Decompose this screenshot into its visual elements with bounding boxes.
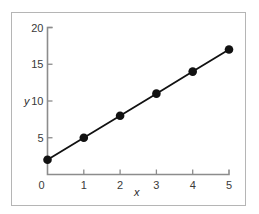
data-point-marker [188, 67, 197, 76]
y-tick-label: 20 [31, 22, 43, 34]
data-point-marker [116, 111, 125, 120]
y-tick-label: 10 [31, 95, 43, 107]
x-tick-label: 1 [81, 179, 87, 191]
data-point-marker [152, 89, 161, 98]
y-tick-label: 15 [31, 58, 43, 70]
data-point-marker [225, 45, 234, 54]
x-tick-label: 2 [117, 179, 123, 191]
line-chart: 5101520 012345 y x [0, 0, 259, 214]
x-axis-label: x [133, 186, 140, 198]
y-tick-label: 5 [37, 132, 43, 144]
x-tick-label: 3 [153, 179, 159, 191]
data-point-marker [43, 156, 52, 165]
x-tick-label: 5 [226, 179, 232, 191]
chart-frame [12, 13, 246, 206]
x-tick-label: 0 [38, 179, 44, 191]
x-tick-label: 4 [190, 179, 196, 191]
data-point-marker [80, 133, 89, 142]
